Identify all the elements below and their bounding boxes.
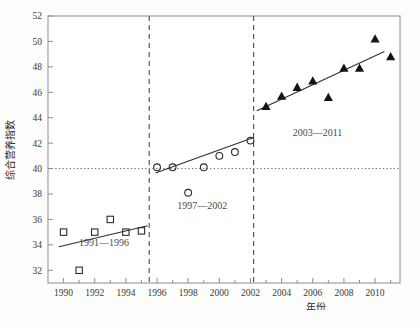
y-axis-title: 综合营养指数 xyxy=(4,120,16,180)
x-tick-label: 2000 xyxy=(210,288,229,298)
x-tick-label: 2002 xyxy=(241,288,260,298)
x-tick-label: 2006 xyxy=(303,288,322,298)
x-tick-label: 1998 xyxy=(179,288,198,298)
y-tick-label: 36 xyxy=(33,215,43,225)
y-tick-label: 32 xyxy=(33,266,43,276)
y-tick-label: 46 xyxy=(33,88,43,98)
x-tick-label: 1990 xyxy=(54,288,73,298)
y-tick-label: 40 xyxy=(33,164,43,174)
scatter-chart-canvas: 3234363840424446485052199019921994199619… xyxy=(0,0,420,310)
y-tick-label: 44 xyxy=(33,113,43,123)
x-tick-label: 2008 xyxy=(334,288,353,298)
x-tick-label: 1994 xyxy=(116,288,135,298)
y-tick-label: 52 xyxy=(33,11,43,21)
y-tick-label: 48 xyxy=(33,62,43,72)
chart-figure: 3234363840424446485052199019921994199619… xyxy=(0,0,420,328)
x-tick-label: 1992 xyxy=(85,288,104,298)
x-axis-title: 年份 xyxy=(306,301,326,310)
x-tick-label: 1996 xyxy=(148,288,167,298)
y-tick-label: 50 xyxy=(33,37,43,47)
annotation-1991-1996: 1991—1996 xyxy=(79,237,129,248)
annotation-1997-2002: 1997—2002 xyxy=(177,200,227,211)
x-tick-label: 2010 xyxy=(366,288,385,298)
y-tick-label: 34 xyxy=(33,240,43,250)
y-tick-label: 42 xyxy=(33,139,43,149)
annotation-2003-2011: 2003—2011 xyxy=(293,127,343,138)
x-tick-label: 2004 xyxy=(272,288,291,298)
y-tick-label: 38 xyxy=(33,189,43,199)
